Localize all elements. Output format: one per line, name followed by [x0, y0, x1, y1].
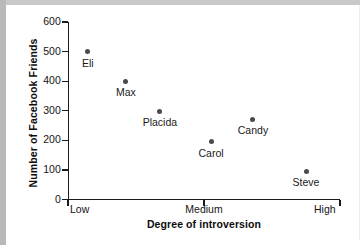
y-tick-mark [62, 140, 68, 141]
y-tick-label: 100 [43, 163, 61, 175]
y-tick-mark [62, 169, 68, 170]
x-tick-mark [339, 200, 340, 206]
data-point-marker [304, 169, 309, 174]
data-point-label: Max [116, 86, 136, 98]
x-axis-title: Degree of introversion [68, 218, 340, 230]
y-tick-label: 0 [55, 193, 61, 205]
data-point-label: Placida [143, 116, 177, 128]
y-tick-mark [62, 21, 68, 22]
y-tick-label: 400 [43, 74, 61, 86]
y-tick-mark [62, 110, 68, 111]
data-point-label: Carol [199, 147, 224, 159]
data-point-marker [209, 139, 214, 144]
scatter-plot: 0100200300400500600 LowMediumHigh EliMax… [0, 0, 363, 251]
y-tick-mark [62, 81, 68, 82]
y-tick-label: 600 [43, 15, 61, 27]
x-tick-mark [67, 200, 68, 206]
y-axis-line [68, 22, 69, 200]
y-axis-title: Number of Facebook Friends [27, 28, 39, 198]
data-point-label: Steve [293, 176, 320, 188]
y-tick-label: 200 [43, 133, 61, 145]
chart-screenshot: 0100200300400500600 LowMediumHigh EliMax… [0, 0, 363, 251]
x-tick-label: High [314, 203, 336, 215]
data-point-label: Eli [82, 57, 94, 69]
y-tick-label: 500 [43, 45, 61, 57]
data-point-label: Candy [238, 124, 268, 136]
data-point-marker [250, 117, 255, 122]
x-tick-label: Low [70, 203, 89, 215]
data-point-marker [85, 49, 90, 54]
data-point-marker [123, 79, 128, 84]
data-point-marker [157, 109, 162, 114]
x-tick-label: Medium [185, 203, 222, 215]
y-tick-label: 300 [43, 104, 61, 116]
y-tick-mark [62, 51, 68, 52]
